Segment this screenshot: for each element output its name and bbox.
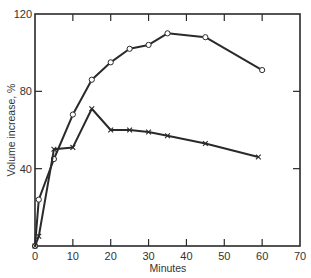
- x-tick-label: 40: [180, 250, 192, 262]
- y-tick-label: 120: [14, 8, 32, 20]
- circle-marker: [89, 77, 94, 82]
- circle-marker: [108, 60, 113, 65]
- circle-marker: [165, 31, 170, 36]
- y-tick-label: 40: [20, 163, 32, 175]
- plot-border: [35, 14, 300, 246]
- circle-marker: [203, 35, 208, 40]
- x-tick-label: 20: [105, 250, 117, 262]
- y-axis-label: Volume increase, %: [5, 84, 17, 177]
- circle-marker: [260, 67, 265, 72]
- x-tick-label: 70: [294, 250, 306, 262]
- x-tick-label: 10: [67, 250, 79, 262]
- x-axis-label: Minutes: [150, 262, 187, 274]
- series-line: [35, 33, 262, 246]
- line-chart: 0102030405060704080120 Minutes Volume in…: [0, 0, 311, 278]
- x-tick-label: 60: [256, 250, 268, 262]
- plot-frame: [35, 14, 300, 246]
- x-tick-label: 0: [32, 250, 38, 262]
- y-tick-label: 80: [20, 85, 32, 97]
- data-series: [32, 31, 264, 249]
- circle-marker: [70, 112, 75, 117]
- circle-marker: [127, 46, 132, 51]
- x-tick-label: 30: [142, 250, 154, 262]
- x-tick-label: 50: [218, 250, 230, 262]
- circle-marker: [36, 197, 41, 202]
- series-circles: [32, 31, 264, 249]
- circle-marker: [146, 42, 151, 47]
